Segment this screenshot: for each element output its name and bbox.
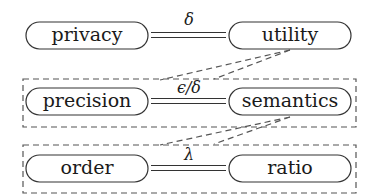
node-ratio-label: ratio <box>267 156 313 178</box>
node-privacy-label: privacy <box>52 23 123 45</box>
row-order-ratio: order λ ratio <box>26 145 351 182</box>
relation-symbol-lambda: λ <box>183 145 194 164</box>
relation-symbol-epsilon-delta: ϵ/δ <box>177 78 201 97</box>
node-semantics-label: semantics <box>242 89 339 111</box>
diagram-canvas: privacy δ utility precision ϵ/δ semantic… <box>0 0 376 195</box>
row-privacy-utility: privacy δ utility <box>26 10 351 49</box>
relation-symbol-delta: δ <box>184 10 194 29</box>
node-order-label: order <box>60 156 114 178</box>
node-precision-label: precision <box>43 89 132 111</box>
row-precision-semantics: precision ϵ/δ semantics <box>26 78 351 115</box>
node-utility-label: utility <box>262 23 319 45</box>
connector-semantics-to-group3 <box>160 117 290 145</box>
connector-utility-to-group2 <box>160 50 290 80</box>
